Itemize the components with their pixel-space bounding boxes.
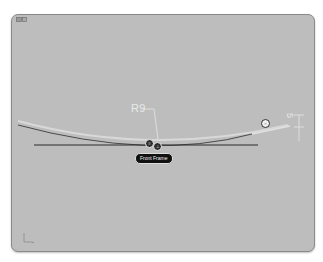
sketch-arc[interactable] bbox=[18, 125, 252, 146]
arc-highlight bbox=[18, 121, 288, 140]
tangent-constraint-icon[interactable]: ⊥ bbox=[153, 142, 162, 151]
height-dimension[interactable]: 5 bbox=[285, 113, 294, 118]
radius-dimension[interactable]: R9 bbox=[131, 103, 145, 114]
front-frame-label[interactable]: Front Frame bbox=[135, 153, 173, 164]
endpoint-constraint-icon[interactable]: ○ bbox=[261, 119, 270, 128]
sketch-viewport[interactable]: R9 5 ≡ ⊥ ○ Front Frame bbox=[11, 14, 315, 252]
axis-triad-icon bbox=[21, 231, 35, 245]
arc-extension-line bbox=[252, 126, 290, 134]
sketch-canvas[interactable] bbox=[12, 15, 314, 251]
radius-leader-diagonal bbox=[154, 109, 158, 139]
